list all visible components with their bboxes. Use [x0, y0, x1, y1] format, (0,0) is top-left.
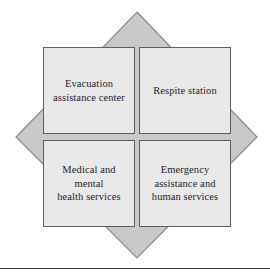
quadrant-label-bottom-right: Emergency assistance and human services: [148, 163, 222, 203]
quadrant-label-bottom-left: Medical and mental health services: [44, 163, 134, 203]
quadrant-label-top-right: Respite station: [149, 84, 221, 97]
quadrant-box-bottom-right[interactable]: Emergency assistance and human services: [139, 140, 231, 227]
quadrant-grid: Evacuation assistance center Respite sta…: [43, 47, 231, 227]
footer-divider: [0, 268, 270, 269]
quadrant-box-bottom-left[interactable]: Medical and mental health services: [43, 140, 135, 227]
quadrant-box-top-right[interactable]: Respite station: [139, 47, 231, 134]
quadrant-box-top-left[interactable]: Evacuation assistance center: [43, 47, 135, 134]
quadrant-label-top-left: Evacuation assistance center: [49, 77, 129, 104]
emergency-services-quadrant-diagram: Evacuation assistance center Respite sta…: [0, 0, 270, 272]
